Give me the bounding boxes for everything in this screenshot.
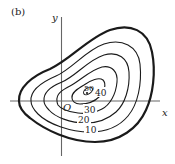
contour-label-20: 20 <box>78 115 90 125</box>
contour-plot: (b) y x O 50 40 30 20 10 <box>0 0 175 164</box>
panel-label: (b) <box>11 6 25 17</box>
y-axis-label: y <box>51 12 58 23</box>
origin-label: O <box>63 102 71 113</box>
contour-label-40: 40 <box>95 88 107 98</box>
contour-label-30: 30 <box>84 105 96 115</box>
x-axis-label: x <box>162 107 168 118</box>
contour-label-10: 10 <box>85 125 97 135</box>
contour-diagram: (b) y x O 50 40 30 20 10 <box>0 0 175 164</box>
contour-label-50: 50 <box>84 84 94 93</box>
